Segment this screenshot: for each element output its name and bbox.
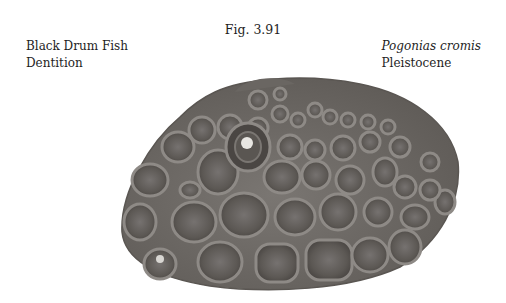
species-name: Pogonias cromis (382, 38, 481, 55)
caption-common-name: Black Drum Fish Dentition (26, 38, 128, 72)
fossil-photo (120, 72, 460, 292)
caption-scientific-name: Pogonias cromis Pleistocene (382, 38, 481, 72)
common-name: Black Drum Fish (26, 38, 128, 55)
specimen-type: Dentition (26, 55, 128, 72)
fossil-dentition-image (120, 72, 460, 292)
figure-number: Fig. 3.91 (0, 22, 506, 37)
geologic-epoch: Pleistocene (382, 55, 481, 72)
